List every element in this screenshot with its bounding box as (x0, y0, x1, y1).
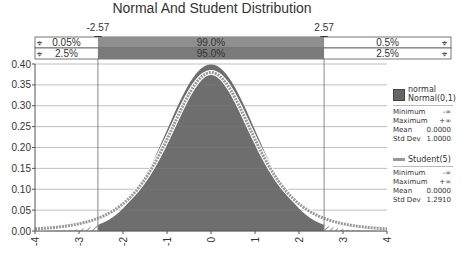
student-line-icon (393, 158, 405, 161)
plot-area: 0.000.050.100.150.200.250.300.350.40-4-3… (12, 22, 451, 246)
expand-right-icon[interactable]: ⌖ (442, 38, 447, 48)
x-tick-label: 0 (206, 237, 217, 243)
y-tick-label: 0.15 (12, 163, 32, 174)
x-tick-label: 2 (294, 237, 305, 243)
marker-label: -2.57 (87, 22, 110, 33)
stat-name: Mean (393, 126, 412, 135)
x-tick-label: 3 (338, 237, 349, 243)
stat-name: Minimum (393, 108, 425, 117)
x-tick-label: -1 (162, 237, 173, 246)
legend-normal-stats: Minimum-∞Maximum+∞Mean0.0000Std Dev1.000… (393, 108, 456, 144)
stat-name: Minimum (393, 169, 425, 178)
stat-value: -∞ (443, 169, 451, 178)
chart-title: Normal And Student Distribution (112, 0, 311, 16)
legend-normal-label: Normal(0,1) (408, 94, 456, 103)
legend-stat-row: Std Dev1.2910 (393, 196, 451, 205)
y-tick-label: 0.05 (12, 205, 32, 216)
expand-right-icon[interactable]: ⌖ (442, 49, 447, 59)
y-tick-label: 0.30 (12, 100, 32, 111)
legend-stat-row: Minimum-∞ (393, 169, 451, 178)
interval-label: 0.05% (52, 37, 80, 48)
x-tick-label: 1 (250, 237, 261, 243)
stat-value: 0.0000 (427, 187, 452, 196)
x-tick-label: -2 (118, 237, 129, 246)
stat-name: Maximum (393, 178, 428, 187)
interval-label: 95.0% (197, 48, 225, 59)
interval-label: 2.5% (376, 48, 399, 59)
stat-name: Std Dev (393, 135, 421, 144)
legend-normal-title: normal (408, 85, 456, 94)
legend-student: Student(5) Minimum-∞Maximum+∞Mean0.0000S… (393, 155, 453, 205)
x-tick-label: -4 (30, 237, 41, 246)
interval-label: 0.5% (376, 37, 399, 48)
legend-student-stats: Minimum-∞Maximum+∞Mean0.0000Std Dev1.291… (393, 169, 453, 205)
legend-stat-row: Mean0.0000 (393, 187, 451, 196)
interval-label: 2.5% (55, 48, 78, 59)
y-tick-label: 0.40 (12, 59, 32, 70)
stat-name: Std Dev (393, 196, 421, 205)
stat-value: 1.2910 (427, 196, 452, 205)
y-tick-label: 0.35 (12, 79, 32, 90)
legend-stat-row: Std Dev1.0000 (393, 135, 451, 144)
expand-left-icon[interactable]: ⌖ (37, 38, 42, 48)
legend-stat-row: Maximum+∞ (393, 117, 451, 126)
normal-swatch-icon (393, 89, 405, 101)
stat-name: Maximum (393, 117, 428, 126)
stat-value: +∞ (439, 178, 451, 187)
legend-stat-row: Maximum+∞ (393, 178, 451, 187)
legend-stat-row: Minimum-∞ (393, 108, 451, 117)
stat-value: -∞ (443, 108, 451, 117)
stat-value: 1.0000 (427, 135, 452, 144)
stat-name: Mean (393, 187, 412, 196)
stat-value: +∞ (439, 117, 451, 126)
legend-normal: normal Normal(0,1) Minimum-∞Maximum+∞Mea… (393, 85, 456, 144)
stat-value: 0.0000 (427, 126, 452, 135)
y-tick-label: 0.00 (12, 226, 32, 237)
marker-label: 2.57 (314, 22, 334, 33)
legend-student-label: Student(5) (408, 155, 451, 164)
expand-left-icon[interactable]: ⌖ (37, 49, 42, 59)
legend-stat-row: Mean0.0000 (393, 126, 451, 135)
y-tick-label: 0.25 (12, 121, 32, 132)
interval-label: 99.0% (197, 37, 225, 48)
x-tick-label: -3 (74, 237, 85, 246)
y-tick-label: 0.20 (12, 142, 32, 153)
y-tick-label: 0.10 (12, 184, 32, 195)
x-tick-label: 4 (382, 237, 393, 243)
